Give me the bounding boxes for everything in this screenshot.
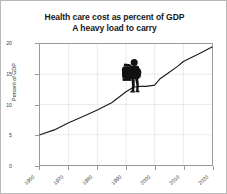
x-tick-label-2010: 2010	[168, 174, 181, 186]
x-tick-label-2020: 2020	[197, 174, 210, 186]
x-tick-label-1990: 1990	[110, 174, 123, 186]
x-tick-mark-2020	[213, 166, 214, 170]
y-tick-label-20: 20	[0, 40, 12, 46]
x-tick-mark-2010	[184, 166, 185, 170]
x-tick-label-1960: 1960	[23, 174, 36, 186]
chart-subtitle: A heavy load to carry	[1, 23, 227, 34]
x-tick-mark-1970	[68, 166, 69, 170]
x-tick-label-1980: 1980	[81, 174, 94, 186]
hiker-icon	[120, 58, 146, 94]
x-tick-mark-2000	[155, 166, 156, 170]
chart-title-block: Health care cost as percent of GDP A hea…	[1, 12, 227, 33]
y-tick-label-5: 5	[0, 132, 12, 138]
hiker-silhouette-svg	[120, 58, 146, 94]
chart-title: Health care cost as percent of GDP	[1, 12, 227, 23]
x-tick-label-1970: 1970	[52, 174, 65, 186]
chart-figure: Health care cost as percent of GDP A hea…	[0, 0, 227, 194]
x-tick-mark-1990	[126, 166, 127, 170]
y-tick-label-0: 0	[0, 163, 12, 169]
x-tick-mark-1980	[97, 166, 98, 170]
y-tick-label-15: 15	[0, 71, 12, 77]
x-tick-mark-1960	[39, 166, 40, 170]
y-axis-label: Percent of GDP	[11, 37, 17, 127]
y-tick-label-10: 10	[0, 102, 12, 108]
x-tick-label-2000: 2000	[139, 174, 152, 186]
